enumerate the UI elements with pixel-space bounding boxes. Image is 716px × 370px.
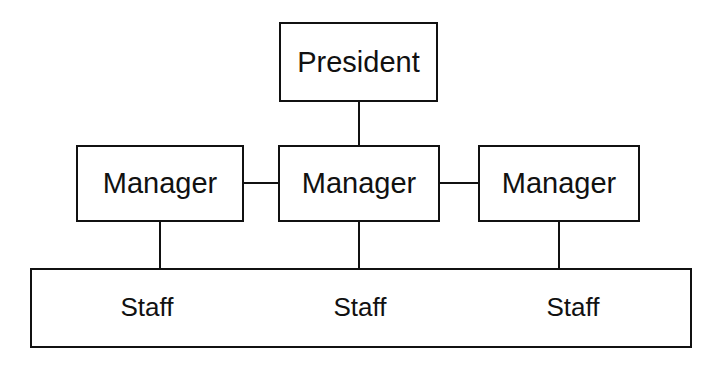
org-chart-diagram: President Manager Manager Manager Staff … <box>0 0 716 370</box>
node-manager-left[interactable]: Manager <box>76 145 244 222</box>
connector-left-manager-to-center-manager <box>244 182 278 184</box>
staff-label-left: Staff <box>120 294 173 320</box>
node-manager-right[interactable]: Manager <box>478 145 640 222</box>
node-president[interactable]: President <box>279 22 438 102</box>
node-manager-center[interactable]: Manager <box>278 145 440 222</box>
connector-left-manager-to-staff <box>159 222 161 268</box>
connector-right-manager-to-staff <box>558 222 560 268</box>
staff-label-right: Staff <box>546 294 599 320</box>
connector-center-manager-to-right-manager <box>440 182 478 184</box>
node-president-label: President <box>297 48 420 77</box>
staff-label-center: Staff <box>333 294 386 320</box>
connector-center-manager-to-staff <box>358 222 360 268</box>
node-manager-right-label: Manager <box>502 169 616 198</box>
connector-president-to-center-manager <box>358 102 360 145</box>
node-manager-left-label: Manager <box>103 169 217 198</box>
node-manager-center-label: Manager <box>302 169 416 198</box>
